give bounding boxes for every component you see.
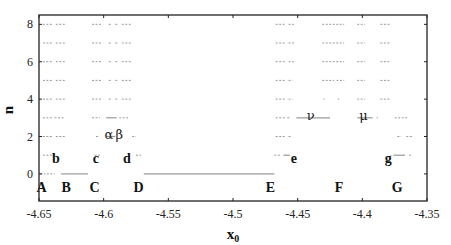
y-axis-title: n: [0, 105, 16, 114]
point-annotations: ABCDEFGbcdegαβνμ: [37, 108, 403, 195]
annotation-label-greek: μ: [359, 108, 367, 123]
y-tick-label: 6: [27, 55, 33, 69]
x-tick-label: -4.5: [224, 207, 243, 221]
annotation-label-B: B: [62, 180, 71, 195]
annotation-label-b: b: [52, 151, 60, 166]
annotation-label-e: e: [291, 151, 297, 166]
x-tick-label: -4.45: [285, 207, 310, 221]
annotation-label-G: G: [392, 180, 403, 195]
annotation-label-A: A: [37, 180, 48, 195]
x-tick-label: -4.4: [353, 207, 372, 221]
annotation-label-g: g: [385, 151, 392, 166]
annotation-label-greek: β: [115, 127, 123, 142]
y-tick-label: 8: [27, 17, 33, 31]
x-axis-title-subscript: 0: [234, 233, 239, 244]
annotation-label-c: c: [93, 151, 99, 166]
figure: ABCDEFGbcdegαβνμ -4.65-4.6-4.55-4.5-4.45…: [0, 0, 451, 245]
annotation-label-F: F: [335, 180, 344, 195]
y-axis-ticks: 02468: [27, 17, 427, 181]
x-tick-label: -4.55: [156, 207, 181, 221]
x-tick-label: -4.35: [415, 207, 440, 221]
annotation-label-d: d: [123, 151, 131, 166]
annotation-label-E: E: [266, 180, 275, 195]
y-tick-label: 0: [27, 167, 33, 181]
x-axis-title: x0: [227, 226, 240, 244]
y-tick-label: 2: [27, 130, 33, 144]
annotation-label-D: D: [134, 180, 144, 195]
annotation-label-C: C: [90, 180, 100, 195]
x-tick-label: -4.65: [27, 207, 52, 221]
y-tick-label: 4: [27, 92, 33, 106]
annotation-label-greek: α: [104, 127, 113, 142]
annotation-label-greek: ν: [307, 108, 315, 123]
x-tick-label: -4.6: [94, 207, 113, 221]
